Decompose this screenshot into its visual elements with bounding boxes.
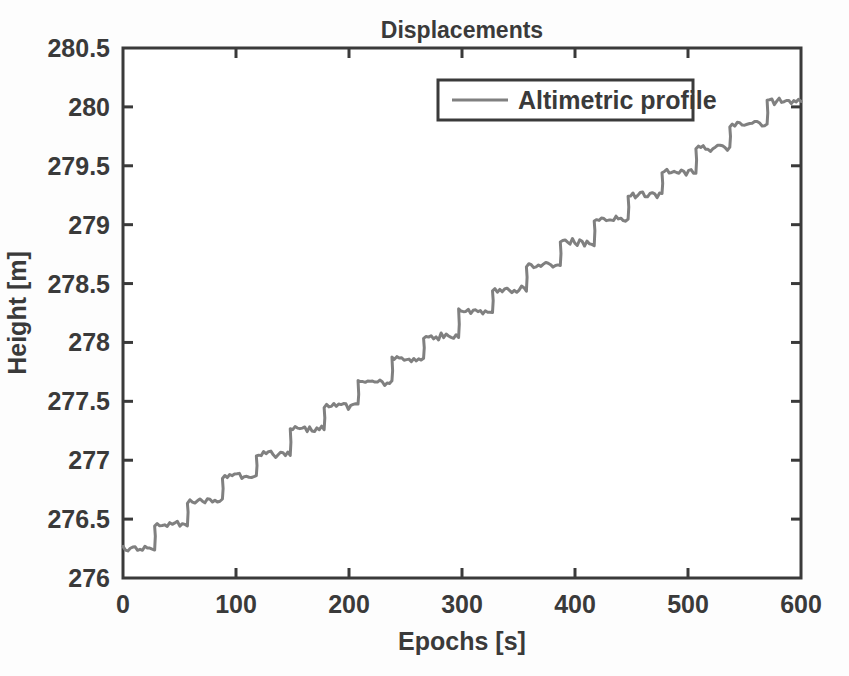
x-axis-label: Epochs [s] — [398, 627, 526, 655]
y-tick-label: 278 — [68, 328, 110, 356]
y-tick-label: 277 — [68, 446, 110, 474]
x-tick-label: 0 — [116, 590, 130, 618]
chart-legend[interactable]: Altimetric profile — [438, 80, 717, 120]
x-tick-label: 500 — [667, 590, 709, 618]
x-tick-label: 600 — [780, 590, 822, 618]
x-tick-label: 300 — [441, 590, 483, 618]
x-tick-label: 100 — [215, 590, 257, 618]
y-tick-label: 276 — [68, 564, 110, 592]
y-tick-label: 279 — [68, 211, 110, 239]
plot-area-background — [123, 48, 801, 578]
displacements-line-chart: 0100200300400500600 276276.5277277.52782… — [0, 0, 849, 676]
chart-figure: 0100200300400500600 276276.5277277.52782… — [0, 0, 849, 676]
y-tick-label: 278.5 — [47, 270, 110, 298]
chart-title: Displacements — [381, 17, 543, 43]
y-tick-label: 279.5 — [47, 152, 110, 180]
x-tick-label: 400 — [554, 590, 596, 618]
y-tick-label: 276.5 — [47, 505, 110, 533]
y-tick-label: 280.5 — [47, 34, 110, 62]
y-axis-label: Height [m] — [3, 251, 31, 375]
x-tick-label: 200 — [328, 590, 370, 618]
y-tick-label: 277.5 — [47, 387, 110, 415]
y-tick-label: 280 — [68, 93, 110, 121]
legend-label-altimetric-profile: Altimetric profile — [518, 86, 717, 114]
